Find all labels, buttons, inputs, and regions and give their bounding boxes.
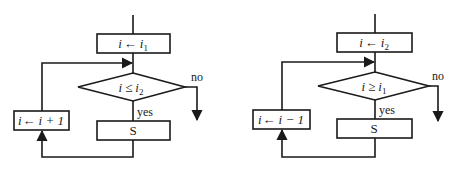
no-label: no <box>432 69 444 83</box>
yes-label: yes <box>379 103 395 117</box>
flowchart-canvas: i←i1 i≤i2 no yes S i←i + 1 i←i2 i≥i1 no … <box>0 0 456 170</box>
no-branch-arrow <box>429 86 438 121</box>
update-label: i←i − 1 <box>258 112 304 127</box>
no-branch-arrow <box>185 87 197 120</box>
body-label: S <box>370 121 377 136</box>
body-label: S <box>129 123 136 138</box>
flowchart-descending: i←i2 i≥i1 no yes S i←i − 1 <box>253 14 444 157</box>
update-label: i←i + 1 <box>18 113 64 128</box>
no-label: no <box>191 70 203 84</box>
yes-label: yes <box>137 105 153 119</box>
flowchart-ascending: i←i1 i≤i2 no yes S i←i + 1 <box>14 15 203 157</box>
